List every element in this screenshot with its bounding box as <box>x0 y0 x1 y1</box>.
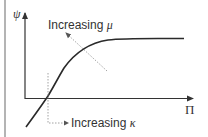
x-axis-label: Π <box>185 102 194 117</box>
increasing-kappa-label: Increasing κ <box>71 116 136 130</box>
increasing-mu-label: Increasing μ <box>48 18 113 32</box>
y-axis-label: ψ <box>13 7 21 21</box>
increasing-mu-arrow <box>66 33 107 71</box>
psi-pi-curve <box>26 38 184 127</box>
diagram-canvas: ψ Π Increasing μ Increasing κ <box>0 0 208 137</box>
increasing-kappa-arrowhead <box>64 121 69 126</box>
